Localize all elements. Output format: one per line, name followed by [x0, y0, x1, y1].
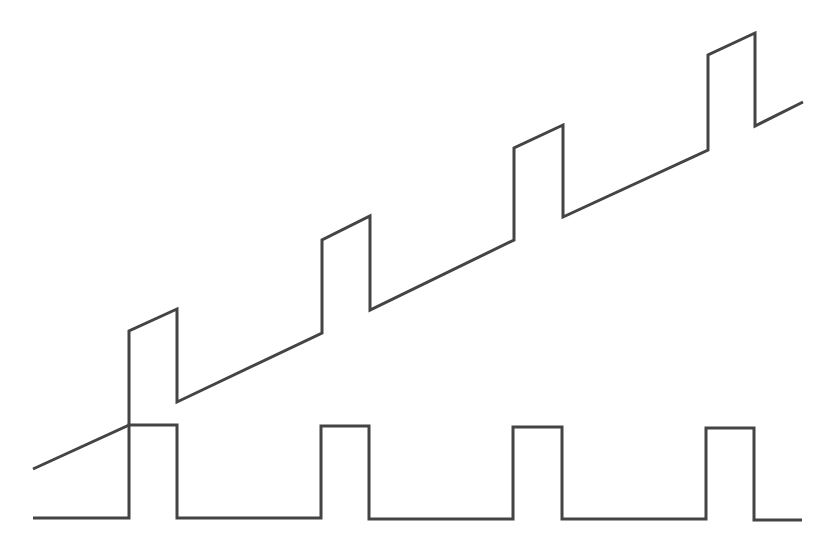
waveform-figure	[0, 0, 833, 552]
ramp-with-pulses-waveform	[33, 33, 803, 469]
pulse-train-waveform	[33, 425, 802, 520]
